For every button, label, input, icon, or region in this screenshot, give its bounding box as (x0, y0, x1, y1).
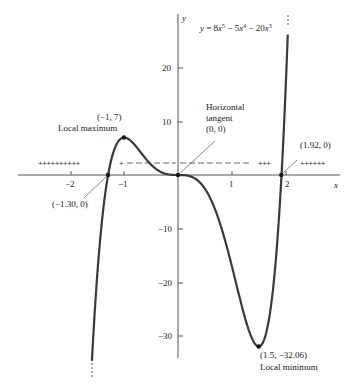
x-axis-label: x (333, 180, 338, 190)
origin-desc-line1: Horizontal (206, 102, 245, 112)
y-tick-label: −30 (158, 331, 173, 341)
y-tick-label: −20 (158, 278, 173, 288)
leader-root-right (283, 160, 297, 173)
function-graph: x y −2 −1 1 2 20 10 −10 −20 −30 ++++++++… (0, 0, 352, 388)
root-right-coord: (1.92, 0) (300, 140, 331, 150)
continuation-dots-bottom (91, 363, 93, 377)
plus-signs: +++ (258, 159, 271, 168)
y-tick-label: 10 (162, 117, 172, 127)
continuation-dots-top (287, 15, 289, 25)
x-tick-label: −2 (65, 179, 75, 189)
function-curve (92, 35, 288, 361)
y-tick-label: 20 (162, 63, 172, 73)
local-max-coord: (−1, 7) (97, 112, 122, 122)
leader-origin (178, 141, 215, 175)
local-min-point (257, 344, 261, 348)
sign-segment: ++++++++++ (38, 159, 81, 168)
root-left-coord: (−1.30, 0) (52, 199, 88, 209)
equation-label: y = 8x5 − 5x4 − 20x3 (199, 23, 272, 33)
x-tick-label: −1 (118, 179, 128, 189)
local-max-point (122, 135, 126, 139)
y-tick-label: −10 (158, 224, 173, 234)
origin-desc-line2: tangent (206, 113, 233, 123)
local-min-coord: (1.5, −32.06) (260, 350, 307, 360)
origin-coord: (0, 0) (206, 124, 226, 134)
root-right-point (279, 173, 283, 177)
plus-sign: + (119, 159, 124, 168)
key-points (106, 135, 284, 348)
local-max-label: Local maximum (58, 123, 117, 133)
sign-segment: ++++++ (300, 159, 326, 168)
y-axis-label: y (181, 13, 186, 23)
x-tick-label: 2 (285, 179, 290, 189)
local-min-label: Local minimum (260, 362, 318, 372)
x-tick-label: 1 (229, 179, 234, 189)
y-ticks: 20 10 −10 −20 −30 (158, 63, 183, 341)
